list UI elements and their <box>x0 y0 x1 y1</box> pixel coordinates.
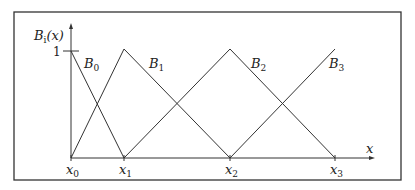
y-axis-arrow-icon <box>69 23 73 29</box>
x-axis-label: x <box>366 141 374 156</box>
y-axis-label: Bi(x) <box>33 28 64 45</box>
x-axis-arrow-icon <box>369 156 375 160</box>
bspline-basis-chart: Bi(x) 1 B0 B1 B2 B3 x x0 x1 x2 x3 <box>0 0 415 190</box>
x-tick-label-x2: x2 <box>225 162 238 179</box>
label-b2: B2 <box>250 56 266 73</box>
label-b3: B3 <box>328 56 345 73</box>
label-b0: B0 <box>83 56 100 73</box>
x-tick-label-x0: x0 <box>66 162 79 179</box>
x-tick-label-x3: x3 <box>330 162 343 179</box>
label-b1: B1 <box>148 56 164 73</box>
x-tick-label-x1: x1 <box>119 162 132 179</box>
y-tick-label-1: 1 <box>53 45 61 59</box>
